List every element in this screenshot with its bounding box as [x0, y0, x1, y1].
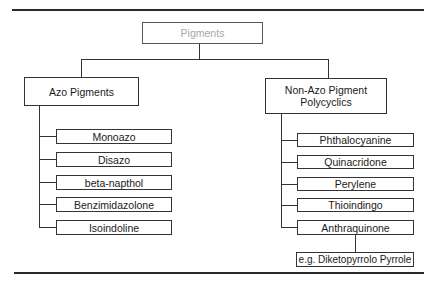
connector: [355, 235, 356, 252]
leaf-node: Monoazo: [56, 129, 172, 144]
connector: [81, 59, 82, 77]
connector: [281, 227, 297, 228]
top-rule: [12, 9, 424, 11]
node-label: e.g. Diketopyrrolo Pyrrole: [299, 254, 412, 266]
leaf-node: Perylene: [297, 177, 414, 191]
connector: [39, 227, 56, 228]
connector: [281, 184, 297, 185]
connector: [328, 59, 329, 78]
bottom-rule: [14, 272, 424, 274]
node-label: Thioindingo: [328, 199, 382, 211]
connector: [39, 136, 56, 137]
node-label: Monoazo: [92, 131, 135, 143]
node-label: Perylene: [335, 178, 376, 190]
connector: [39, 159, 56, 160]
leaf-node: beta-napthol: [56, 175, 172, 190]
leaf-node: Benzimidazolone: [56, 197, 172, 212]
connector: [199, 44, 200, 60]
root-node-pigments: Pigments: [142, 22, 263, 44]
leaf-node: Phthalocyanine: [297, 133, 414, 147]
node-label: Phthalocyanine: [320, 134, 392, 146]
leaf-node: Isoindoline: [56, 220, 172, 235]
node-label: Anthraquinone: [321, 222, 389, 234]
branch-node-azo-pigments: Azo Pigments: [24, 77, 139, 106]
node-label: Isoindoline: [89, 222, 139, 234]
leaf-node: Quinacridone: [297, 155, 414, 169]
connector: [39, 106, 40, 228]
connector: [39, 182, 56, 183]
connector: [281, 162, 297, 163]
connector: [281, 205, 297, 206]
leaf-node: Disazo: [56, 152, 172, 167]
node-label: Pigments: [181, 27, 225, 39]
connector: [39, 204, 56, 205]
node-label: Benzimidazolone: [74, 199, 154, 211]
connector: [281, 114, 282, 228]
branch-node-non-azo: Non-Azo Pigment Polycyclics: [265, 78, 387, 114]
node-label: Quinacridone: [324, 156, 386, 168]
node-label: Non-Azo Pigment Polycyclics: [272, 84, 380, 108]
leaf-node: Thioindingo: [297, 198, 414, 212]
node-label: beta-napthol: [85, 177, 143, 189]
node-label: Disazo: [98, 154, 130, 166]
example-node: e.g. Diketopyrrolo Pyrrole: [296, 252, 414, 267]
connector: [81, 59, 329, 60]
node-label: Azo Pigments: [49, 86, 114, 98]
connector: [281, 140, 297, 141]
leaf-node: Anthraquinone: [297, 220, 414, 235]
